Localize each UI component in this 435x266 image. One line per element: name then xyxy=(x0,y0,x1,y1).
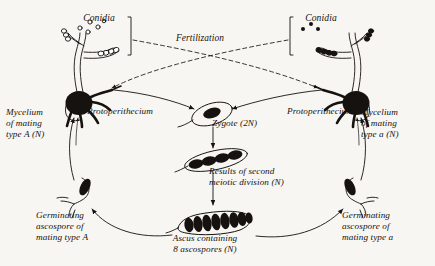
leader-mycelium-left xyxy=(76,118,78,145)
label-mycelium-right: Mycelium of mating type a (N) xyxy=(361,107,431,140)
conidia-chain-right-branch xyxy=(315,47,337,57)
leader-mycelium-right xyxy=(357,118,359,145)
label-zygote: Zygote (2N) xyxy=(212,118,282,129)
label-ascus: Ascus containing 8 ascospores (N) xyxy=(160,233,250,255)
label-conidia-right: Conidia xyxy=(284,12,358,23)
ascospores xyxy=(183,211,253,232)
label-germinating-ascospore-left: Germinating ascospore of mating type A xyxy=(36,210,116,243)
neurospora-life-cycle-diagram: Conidia Conidia Fertilization Protoperit… xyxy=(0,0,435,266)
conidia-right-free xyxy=(301,22,320,31)
label-protoperithecium-left: Protoperithecium xyxy=(74,106,166,117)
ascus-cell xyxy=(166,211,253,234)
fertilization-dashed-lines xyxy=(112,40,318,88)
label-fertilization: Fertilization xyxy=(150,33,250,44)
label-second-meiotic-division: Results of second meiotic division (N) xyxy=(209,166,307,188)
label-protoperithecium-right: Protoperithecium xyxy=(274,106,366,117)
conidia-chain-left-branch xyxy=(98,47,120,57)
label-mycelium-left: Mycelium of mating type A (N) xyxy=(6,107,76,140)
arrow-ascus-to-germ-right xyxy=(256,209,343,237)
label-conidia-left: Conidia xyxy=(62,12,136,23)
label-germinating-ascospore-right: Germinating ascospore of mating type a xyxy=(342,210,422,243)
